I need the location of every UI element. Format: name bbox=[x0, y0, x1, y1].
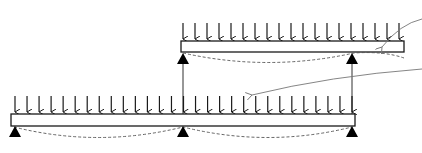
upper-beam bbox=[181, 41, 404, 52]
beam-diagram bbox=[0, 0, 422, 153]
upper-deflection-curve bbox=[183, 53, 404, 63]
upper-support-left-icon bbox=[177, 53, 189, 64]
lower-beam bbox=[11, 114, 355, 126]
lower-distributed-load bbox=[15, 96, 352, 112]
upper-distributed-load bbox=[183, 23, 399, 39]
lower-support-left-icon bbox=[9, 126, 21, 137]
pointer-arrow-lower bbox=[252, 69, 422, 95]
